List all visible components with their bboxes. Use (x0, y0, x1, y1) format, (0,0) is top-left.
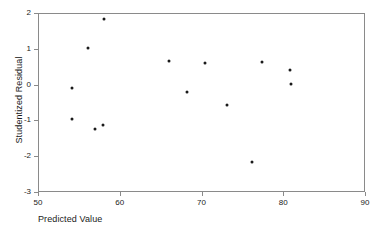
x-axis-tick-label: 70 (187, 198, 217, 207)
x-axis-tick (365, 192, 366, 196)
data-point (167, 59, 170, 62)
y-axis-tick (34, 156, 38, 157)
y-axis-title: Studentized Residual (14, 35, 24, 165)
x-axis-tick-label: 60 (105, 198, 135, 207)
x-axis-tick-label: 90 (350, 198, 379, 207)
data-point (225, 104, 228, 107)
data-point (185, 91, 188, 94)
data-point (102, 124, 105, 127)
y-axis-tick (34, 120, 38, 121)
data-point (71, 117, 74, 120)
y-axis-tick (34, 49, 38, 50)
data-point (251, 160, 254, 163)
x-axis-tick (202, 192, 203, 196)
plot-data-area (38, 13, 365, 192)
data-point (203, 62, 206, 65)
x-axis-tick-label: 50 (23, 198, 53, 207)
data-point (289, 82, 292, 85)
x-axis-tick (38, 192, 39, 196)
x-axis-tick (120, 192, 121, 196)
x-axis-tick (283, 192, 284, 196)
y-axis-tick (34, 13, 38, 14)
data-point (94, 127, 97, 130)
y-axis-tick-label: -3 (9, 188, 31, 196)
data-point (288, 68, 291, 71)
y-axis-tick-label: 2 (9, 9, 31, 17)
x-axis-title: Predicted Value (38, 214, 198, 224)
data-point (103, 18, 106, 21)
y-axis-tick (34, 85, 38, 86)
data-point (71, 86, 74, 89)
scatter-plot-figure: 210-1-2-35060708090 Predicted Value Stud… (0, 0, 379, 234)
data-point (260, 61, 263, 64)
data-point (86, 47, 89, 50)
x-axis-tick-label: 80 (268, 198, 298, 207)
